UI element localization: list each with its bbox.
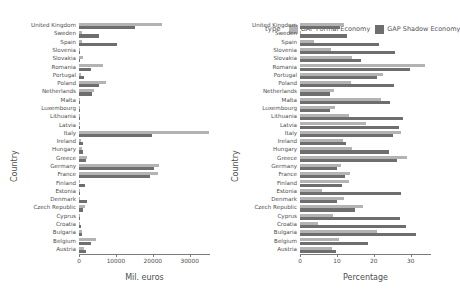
bar-group-row: Malta bbox=[300, 97, 431, 105]
bar-group-row: Greece bbox=[300, 155, 431, 163]
bar-shadow-economy[interactable] bbox=[79, 76, 84, 79]
bar-shadow-economy[interactable] bbox=[79, 242, 91, 245]
category-label: Slovenia bbox=[52, 48, 76, 54]
bar-shadow-economy[interactable] bbox=[79, 92, 92, 95]
bar-shadow-economy[interactable] bbox=[300, 159, 397, 162]
bar-group-row: Italy bbox=[79, 130, 210, 138]
bar-shadow-economy[interactable] bbox=[79, 34, 99, 37]
x-axis-tick bbox=[411, 255, 412, 258]
x-axis-tick-label: 0 bbox=[77, 258, 81, 264]
x-axis-tick bbox=[153, 255, 154, 258]
bar-group-row: Czech Republic bbox=[300, 204, 431, 212]
bar-shadow-economy[interactable] bbox=[79, 200, 87, 203]
bar-shadow-economy[interactable] bbox=[300, 92, 330, 95]
bar-shadow-economy[interactable] bbox=[300, 233, 416, 236]
bar-group-row: Spain bbox=[79, 39, 210, 47]
bar-shadow-economy[interactable] bbox=[300, 150, 389, 153]
bar-shadow-economy[interactable] bbox=[300, 68, 410, 71]
bar-shadow-economy[interactable] bbox=[79, 51, 80, 54]
bar-shadow-economy[interactable] bbox=[300, 84, 394, 87]
bar-shadow-economy[interactable] bbox=[300, 217, 400, 220]
category-label: Latvia bbox=[59, 123, 76, 129]
bar-shadow-economy[interactable] bbox=[79, 84, 99, 87]
bar-shadow-economy[interactable] bbox=[79, 134, 152, 137]
category-label: Cyprus bbox=[277, 214, 297, 220]
bar-shadow-economy[interactable] bbox=[300, 134, 393, 137]
bar-shadow-economy[interactable] bbox=[79, 142, 83, 145]
bar-group-row: Belgium bbox=[300, 237, 431, 245]
x-axis-tick bbox=[374, 255, 375, 258]
bar-shadow-economy[interactable] bbox=[79, 117, 80, 120]
bar-group-row: Spain bbox=[300, 39, 431, 47]
bar-shadow-economy[interactable] bbox=[79, 233, 82, 236]
bar-group-row: Slovakia bbox=[79, 55, 210, 63]
bar-shadow-economy[interactable] bbox=[79, 59, 80, 62]
bar-group-row: Slovenia bbox=[300, 47, 431, 55]
x-axis-tick bbox=[337, 255, 338, 258]
bar-shadow-economy[interactable] bbox=[300, 208, 355, 211]
bar-shadow-economy[interactable] bbox=[79, 26, 135, 29]
bar-group-row: Poland bbox=[79, 80, 210, 88]
bar-shadow-economy[interactable] bbox=[300, 43, 379, 46]
x-axis-tick bbox=[190, 255, 191, 258]
bar-shadow-economy[interactable] bbox=[79, 225, 81, 228]
category-label: Belgium bbox=[53, 239, 76, 245]
plot-area-left: United KingdomSwedenSpainSloveniaSlovaki… bbox=[79, 22, 210, 254]
bar-shadow-economy[interactable] bbox=[79, 126, 80, 129]
bar-group-row: Netherlands bbox=[79, 88, 210, 96]
bar-shadow-economy[interactable] bbox=[300, 34, 347, 37]
bar-group-row: Hungary bbox=[300, 146, 431, 154]
category-label: Ireland bbox=[278, 139, 297, 145]
bar-group-row: Denmark bbox=[300, 196, 431, 204]
bar-group-row: Lithuania bbox=[300, 113, 431, 121]
bar-group-row: Slovenia bbox=[79, 47, 210, 55]
bar-shadow-economy[interactable] bbox=[300, 26, 340, 29]
bar-shadow-economy[interactable] bbox=[300, 109, 330, 112]
category-label: Finland bbox=[56, 181, 76, 187]
category-label: Spain bbox=[281, 40, 297, 46]
bar-shadow-economy[interactable] bbox=[300, 225, 406, 228]
bar-shadow-economy[interactable] bbox=[79, 167, 154, 170]
bar-group-row: Netherlands bbox=[300, 88, 431, 96]
bar-shadow-economy[interactable] bbox=[300, 51, 395, 54]
bar-group-row: Portugal bbox=[300, 72, 431, 80]
bar-shadow-economy[interactable] bbox=[79, 150, 83, 153]
bar-shadow-economy[interactable] bbox=[79, 159, 86, 162]
bar-shadow-economy[interactable] bbox=[300, 101, 390, 104]
bar-shadow-economy[interactable] bbox=[300, 242, 368, 245]
bar-shadow-economy[interactable] bbox=[300, 175, 345, 178]
bar-shadow-economy[interactable] bbox=[79, 250, 86, 253]
bar-group-row: Poland bbox=[300, 80, 431, 88]
bar-shadow-economy[interactable] bbox=[79, 68, 91, 71]
bar-group-row: Bulgaria bbox=[79, 229, 210, 237]
bar-group-row: Romania bbox=[79, 63, 210, 71]
bar-shadow-economy[interactable] bbox=[300, 167, 337, 170]
category-label: Lithuania bbox=[50, 114, 76, 120]
bar-group-row: Sweden bbox=[79, 30, 210, 38]
bar-group-row: Slovakia bbox=[300, 55, 431, 63]
bar-shadow-economy[interactable] bbox=[79, 184, 85, 187]
bar-group-row: United Kingdom bbox=[79, 22, 210, 30]
bar-shadow-economy[interactable] bbox=[300, 200, 337, 203]
category-label: Romania bbox=[273, 65, 297, 71]
bar-shadow-economy[interactable] bbox=[79, 43, 117, 46]
category-label: Ireland bbox=[57, 139, 76, 145]
x-axis-tick-label: 10000 bbox=[107, 258, 125, 264]
category-label: Czech Republic bbox=[33, 206, 76, 212]
bar-shadow-economy[interactable] bbox=[300, 76, 377, 79]
bar-shadow-economy[interactable] bbox=[79, 175, 150, 178]
bar-shadow-economy[interactable] bbox=[300, 142, 346, 145]
bar-group-row: Sweden bbox=[300, 30, 431, 38]
bar-shadow-economy[interactable] bbox=[300, 117, 403, 120]
bar-shadow-economy[interactable] bbox=[300, 59, 361, 62]
x-axis-tick-label: 20 bbox=[370, 258, 377, 264]
bar-group-row: Estonia bbox=[300, 188, 431, 196]
bar-shadow-economy[interactable] bbox=[300, 192, 401, 195]
category-label: Luxembourg bbox=[262, 106, 297, 112]
bar-shadow-economy[interactable] bbox=[300, 184, 342, 187]
bar-shadow-economy[interactable] bbox=[79, 208, 83, 211]
bar-shadow-economy[interactable] bbox=[300, 126, 399, 129]
category-label: Lithuania bbox=[271, 114, 297, 120]
category-label: Slovakia bbox=[53, 56, 77, 62]
bar-shadow-economy[interactable] bbox=[300, 250, 336, 253]
